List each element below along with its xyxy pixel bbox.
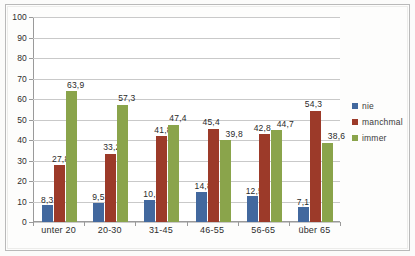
chart-figure: 8,327,863,99,533,257,310,841,847,414,845… (0, 0, 415, 256)
y-axis-tick-label: 90 (0, 33, 27, 42)
bar-value-label: 45,4 (203, 118, 220, 127)
bar-value-label: 7,1 (297, 198, 309, 207)
bar-manchmal: 33,2 (105, 154, 116, 222)
legend-label: nie (362, 102, 374, 111)
bar-nie: 14,8 (196, 192, 207, 222)
bar-group: 7,154,338,6 (291, 17, 342, 222)
y-axis-tick-label: 80 (0, 54, 27, 63)
legend-label: immer (362, 134, 387, 143)
bar-group: 14,845,439,8 (189, 17, 240, 222)
bar-immer: 47,4 (168, 125, 179, 222)
bar-value-label: 8,3 (41, 196, 53, 205)
x-axis-category-label: 31-45 (135, 226, 186, 235)
y-axis-tick-label: 40 (0, 136, 27, 145)
x-axis-category-label: 56-65 (238, 226, 289, 235)
bar-manchmal: 54,3 (310, 111, 321, 222)
y-axis-tick (29, 120, 33, 121)
bar-group: 12,542,844,7 (240, 17, 291, 222)
bar-nie: 9,5 (93, 203, 104, 222)
y-axis-tick (29, 58, 33, 59)
bar-manchmal: 42,8 (259, 134, 270, 222)
bar-value-label: 54,3 (305, 100, 322, 109)
bar-immer: 44,7 (271, 130, 282, 222)
legend-label: manchmal (362, 118, 403, 127)
bar-manchmal: 41,8 (156, 136, 167, 222)
y-axis-tick (29, 79, 33, 80)
y-axis-tick-label: 70 (0, 74, 27, 83)
bar-immer: 63,9 (66, 91, 77, 222)
x-axis-category-label: 20-30 (84, 226, 135, 235)
bar-group: 9,533,257,3 (86, 17, 137, 222)
legend-swatch-icon (352, 119, 358, 125)
bar-group: 8,327,863,9 (35, 17, 86, 222)
y-axis-tick (29, 38, 33, 39)
bar-manchmal: 27,8 (54, 165, 65, 222)
x-axis-category-label: über 65 (289, 226, 340, 235)
plot-area: 8,327,863,99,533,257,310,841,847,414,845… (33, 17, 340, 222)
bar-immer: 38,6 (322, 143, 333, 222)
bar-value-label: 63,9 (67, 81, 84, 90)
y-axis-tick-label: 50 (0, 115, 27, 124)
y-axis-tick (29, 202, 33, 203)
x-axis-tick (340, 222, 341, 226)
bar-value-label: 47,4 (169, 114, 186, 123)
bar-immer: 39,8 (220, 140, 231, 222)
bar-immer: 57,3 (117, 105, 128, 222)
y-axis-tick (29, 181, 33, 182)
y-axis-tick-label: 60 (0, 95, 27, 104)
y-axis-tick-label: 0 (0, 218, 27, 227)
x-axis-category-label: unter 20 (33, 226, 84, 235)
legend-item[interactable]: nie (352, 98, 410, 114)
legend-item[interactable]: immer (352, 130, 410, 146)
bar-nie: 7,1 (298, 207, 309, 222)
bar-nie: 8,3 (42, 205, 53, 222)
y-axis-tick (29, 161, 33, 162)
legend-swatch-icon (352, 103, 358, 109)
bar-group: 10,841,847,4 (137, 17, 188, 222)
bar-nie: 12,5 (247, 196, 258, 222)
y-axis-tick-label: 100 (0, 13, 27, 22)
y-axis-tick (29, 140, 33, 141)
bar-value-label: 9,5 (92, 193, 104, 202)
y-axis-tick-label: 30 (0, 156, 27, 165)
bar-value-label: 42,8 (254, 124, 271, 133)
x-axis-category-label: 46-55 (187, 226, 238, 235)
y-axis-tick-label: 20 (0, 177, 27, 186)
y-axis-tick (29, 17, 33, 18)
bar-nie: 10,8 (144, 200, 155, 222)
legend-item[interactable]: manchmal (352, 114, 410, 130)
bar-manchmal: 45,4 (208, 129, 219, 222)
bar-value-label: 38,6 (328, 132, 345, 141)
legend-swatch-icon (352, 135, 358, 141)
y-axis-tick-label: 10 (0, 197, 27, 206)
chart-legend: niemanchmalimmer (352, 98, 410, 146)
y-axis-tick (29, 99, 33, 100)
bar-value-label: 57,3 (118, 94, 135, 103)
